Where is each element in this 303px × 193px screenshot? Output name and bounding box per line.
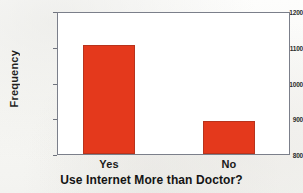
bar-yes	[83, 45, 135, 154]
x-tick-label-yes: Yes	[83, 158, 135, 170]
plot-area	[57, 12, 290, 155]
chart-screenshot: Frequency 800 900 1000 1100 1200 Yes No …	[0, 0, 303, 193]
y-axis-title: Frequency	[8, 50, 22, 107]
y-tick-mark-800	[53, 155, 57, 156]
x-axis-title: Use Internet More than Doctor?	[0, 173, 303, 187]
x-tick-label-no: No	[203, 158, 255, 170]
bar-no	[203, 121, 255, 154]
